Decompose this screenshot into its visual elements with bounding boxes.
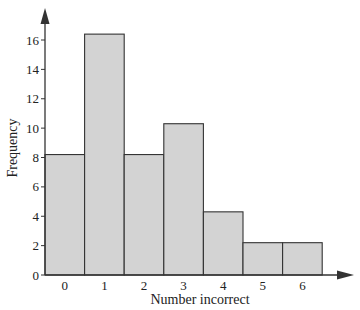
x-tick-label: 5 (260, 278, 267, 293)
y-tick-label: 10 (26, 121, 39, 136)
y-tick-label: 12 (26, 91, 39, 106)
y-axis-ticks: 0246810121416 (26, 33, 45, 283)
bar-5 (243, 243, 283, 275)
y-tick-label: 4 (33, 209, 40, 224)
y-tick-label: 0 (33, 268, 40, 283)
y-tick-label: 14 (26, 62, 40, 77)
bar-1 (85, 34, 125, 275)
y-tick-label: 2 (33, 238, 40, 253)
x-tick-label: 1 (101, 278, 108, 293)
x-axis-ticks: 0123456 (62, 278, 307, 293)
x-tick-label: 4 (220, 278, 227, 293)
x-tick-label: 2 (141, 278, 148, 293)
x-tick-label: 6 (299, 278, 306, 293)
y-tick-label: 8 (33, 150, 40, 165)
bars-group (45, 34, 322, 275)
x-axis-arrow-icon (337, 271, 354, 280)
y-tick-label: 6 (33, 179, 40, 194)
y-tick-label: 16 (26, 33, 40, 48)
y-axis-label: Frequency (5, 118, 20, 177)
histogram-chart: 0246810121416 0123456 Number incorrect F… (0, 0, 360, 310)
x-axis-label: Number incorrect (150, 292, 249, 307)
y-axis-arrow-icon (41, 8, 50, 24)
bar-3 (164, 124, 204, 275)
x-tick-label: 0 (62, 278, 69, 293)
bar-6 (283, 243, 323, 275)
bar-4 (203, 212, 243, 275)
x-tick-label: 3 (180, 278, 187, 293)
bar-2 (124, 155, 164, 275)
bar-0 (45, 155, 85, 275)
